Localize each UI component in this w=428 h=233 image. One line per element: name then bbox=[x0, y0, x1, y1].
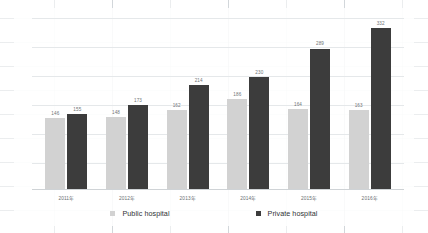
private-hospital-bar-wrap: 173 bbox=[128, 14, 148, 189]
bar-value-label: 332 bbox=[377, 22, 385, 27]
bar-value-label: 155 bbox=[73, 108, 81, 113]
category-tick-label: 2011年 bbox=[36, 194, 97, 206]
chart-legend: Public hospital Private hospital bbox=[14, 209, 414, 218]
category-tick-label: 2012年 bbox=[97, 194, 158, 206]
public-hospital-bar[interactable] bbox=[106, 117, 126, 189]
public-hospital-bar[interactable] bbox=[167, 110, 187, 189]
bar-group: 164289 bbox=[279, 14, 340, 189]
bar-value-label: 148 bbox=[112, 111, 120, 116]
bar-group: 146155 bbox=[36, 14, 97, 189]
private-series-swatch-icon bbox=[256, 211, 261, 216]
private-hospital-bar[interactable] bbox=[371, 28, 391, 189]
public-hospital-bar-wrap: 146 bbox=[45, 14, 65, 189]
private-hospital-bar-wrap: 289 bbox=[310, 14, 330, 189]
bar-value-label: 163 bbox=[355, 104, 363, 109]
bar-group: 186230 bbox=[218, 14, 279, 189]
public-hospital-bar[interactable] bbox=[45, 118, 65, 189]
category-axis-labels: 2011年2012年2013年2014年2015年2016年 bbox=[32, 194, 404, 206]
bar-value-label: 289 bbox=[316, 42, 324, 47]
legend-item-private-hospital[interactable]: Private hospital bbox=[256, 209, 318, 218]
legend-label: Private hospital bbox=[268, 209, 318, 218]
private-hospital-bar[interactable] bbox=[128, 105, 148, 189]
category-tick-label: 2013年 bbox=[157, 194, 218, 206]
category-tick-label: 2014年 bbox=[218, 194, 279, 206]
bar-chart[interactable]: 146155148173162214186230164289163332 201… bbox=[14, 8, 414, 226]
public-hospital-bar-wrap: 164 bbox=[288, 14, 308, 189]
chart-screenshot: 146155148173162214186230164289163332 201… bbox=[0, 0, 428, 233]
bar-value-label: 173 bbox=[134, 99, 142, 104]
public-hospital-bar[interactable] bbox=[349, 110, 369, 189]
public-hospital-bar-wrap: 162 bbox=[167, 14, 187, 189]
private-hospital-bar[interactable] bbox=[67, 114, 87, 189]
private-hospital-bar-wrap: 214 bbox=[189, 14, 209, 189]
private-hospital-bar-wrap: 230 bbox=[249, 14, 269, 189]
public-hospital-bar-wrap: 163 bbox=[349, 14, 369, 189]
public-hospital-bar-wrap: 148 bbox=[106, 14, 126, 189]
public-hospital-bar[interactable] bbox=[288, 109, 308, 189]
private-hospital-bar[interactable] bbox=[310, 49, 330, 190]
legend-item-public-hospital[interactable]: Public hospital bbox=[110, 209, 169, 218]
category-axis-line bbox=[32, 189, 404, 190]
private-hospital-bar[interactable] bbox=[249, 77, 269, 189]
public-hospital-bar-wrap: 186 bbox=[227, 14, 247, 189]
bar-value-label: 164 bbox=[294, 103, 302, 108]
bar-value-label: 146 bbox=[51, 112, 59, 117]
bar-value-label: 162 bbox=[173, 104, 181, 109]
public-series-swatch-icon bbox=[110, 211, 115, 216]
bar-value-label: 186 bbox=[233, 93, 241, 98]
bar-value-label: 214 bbox=[195, 79, 203, 84]
public-hospital-bar[interactable] bbox=[227, 99, 247, 189]
private-hospital-bar-wrap: 155 bbox=[67, 14, 87, 189]
plot-area: 146155148173162214186230164289163332 bbox=[32, 14, 404, 190]
bar-group: 163332 bbox=[339, 14, 400, 189]
bar-value-label: 230 bbox=[255, 71, 263, 76]
bar-groups: 146155148173162214186230164289163332 bbox=[32, 14, 404, 189]
category-tick-label: 2015年 bbox=[279, 194, 340, 206]
private-hospital-bar-wrap: 332 bbox=[371, 14, 391, 189]
category-tick-label: 2016年 bbox=[339, 194, 400, 206]
bar-group: 162214 bbox=[157, 14, 218, 189]
bar-group: 148173 bbox=[97, 14, 158, 189]
private-hospital-bar[interactable] bbox=[189, 85, 209, 189]
legend-label: Public hospital bbox=[122, 209, 169, 218]
